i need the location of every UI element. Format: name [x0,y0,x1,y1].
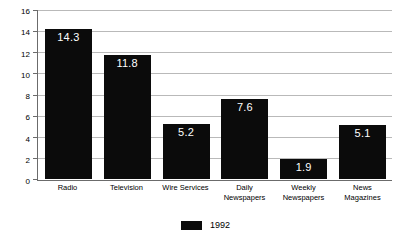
bar-value-label: 14.3 [57,31,79,43]
y-axis-labels: 0246810121416 [0,11,30,181]
x-axis-label-line: Magazines [333,193,392,203]
x-axis-category-label: DailyNewspapers [215,183,274,202]
y-axis-tick-label: 6 [26,113,30,122]
bar[interactable]: 7.6 [221,99,268,179]
x-axis-label-line: Daily [215,183,274,193]
bar-chart: 0246810121416 14.311.85.27.61.95.1 Radio… [0,0,411,242]
x-axis-label-line: News [333,183,392,193]
x-axis-label-line: Television [97,183,156,193]
bar-slot: 7.6 [215,11,274,179]
chart-legend: 1992 [0,220,411,230]
plot-area: 14.311.85.27.61.95.1 [37,11,392,181]
x-axis-category-label: NewsMagazines [333,183,392,202]
y-axis-tick-label: 14 [21,28,30,37]
y-axis-tickmark [33,52,38,53]
y-axis-tick-label: 10 [21,70,30,79]
bar-slot: 5.1 [333,11,392,179]
bar-value-label: 5.1 [355,127,371,139]
bar[interactable]: 5.1 [339,125,386,179]
bar-value-label: 11.8 [117,57,138,69]
bar-value-label: 1.9 [296,161,312,173]
bar-value-label: 5.2 [178,126,194,138]
y-axis-tickmark [33,95,38,96]
bar[interactable]: 1.9 [280,159,327,179]
y-axis-tickmark [33,116,38,117]
x-axis-label-line: Wire Services [156,183,215,193]
y-axis-tickmark [33,158,38,159]
legend-color-swatch [181,221,202,230]
bar[interactable]: 14.3 [45,29,92,179]
x-axis-label-line: Newspapers [215,193,274,203]
bar-slot: 14.3 [39,11,98,179]
bar-group: 14.311.85.27.61.95.1 [39,11,392,179]
bar-value-label: 7.6 [237,101,253,113]
x-axis-category-label: Television [97,183,156,202]
legend-label: 1992 [210,220,230,230]
y-axis-tick-label: 2 [26,155,30,164]
y-axis-tickmarks [33,11,38,180]
y-axis-tick-label: 16 [21,7,30,16]
x-axis-label-line: Weekly [274,183,333,193]
y-axis-tickmark [33,10,38,11]
y-axis-tick-label: 0 [26,177,30,186]
y-axis-tickmark [33,31,38,32]
x-axis-category-label: WeeklyNewspapers [274,183,333,202]
x-axis-label-line: Newspapers [274,193,333,203]
legend-item[interactable]: 1992 [181,220,230,230]
y-axis-tickmark [33,179,38,180]
x-axis-category-label: Radio [38,183,97,202]
bar-slot: 11.8 [98,11,157,179]
plot-area-wrapper: 14.311.85.27.61.95.1 [37,11,392,181]
x-axis-label-line: Radio [38,183,97,193]
y-axis-tickmark [33,73,38,74]
bar[interactable]: 11.8 [104,55,151,179]
bar-slot: 5.2 [157,11,216,179]
y-axis-tick-label: 4 [26,134,30,143]
bar[interactable]: 5.2 [163,124,210,179]
bar-slot: 1.9 [274,11,333,179]
y-axis-tickmark [33,137,38,138]
x-axis-category-label: Wire Services [156,183,215,202]
y-axis-tick-label: 12 [21,49,30,58]
x-axis-labels: RadioTelevisionWire ServicesDailyNewspap… [38,183,392,202]
y-axis-tick-label: 8 [26,92,30,101]
